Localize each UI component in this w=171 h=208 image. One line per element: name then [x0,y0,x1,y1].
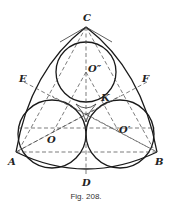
label-o: O [47,134,56,145]
label-f: F [141,73,150,84]
label-b: B [154,156,163,167]
label-d: D [81,177,91,188]
outer-arc-bottom [16,152,157,169]
label-o2: O″ [88,63,102,74]
label-o1: O′ [119,124,131,135]
geometry-diagram: C E F O″ K O O′ A B D Fig. 208. [0,0,171,208]
label-e: E [18,73,27,84]
line-c-a [20,27,86,148]
figure-caption: Fig. 208. [70,192,101,201]
label-a: A [7,156,16,167]
label-k: K [100,92,111,103]
label-c: C [83,12,91,23]
